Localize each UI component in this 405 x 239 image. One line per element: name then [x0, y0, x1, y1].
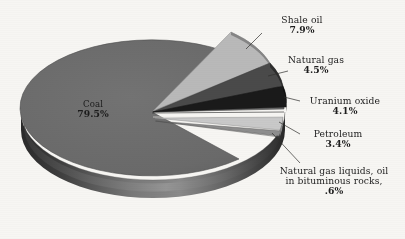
slice-percent-shale-oil: 7.9% — [265, 25, 339, 35]
slice-percent-petroleum: 3.4% — [300, 139, 376, 149]
pie-chart-figure: Coal 79.5% Shale oil 7.9% Natural gas 4.… — [0, 0, 405, 239]
slice-label-coal: Coal 79.5% — [58, 100, 128, 119]
slice-percent-ngl: .6% — [268, 186, 400, 196]
slice-label-uranium-oxide: Uranium oxide 4.1% — [300, 96, 390, 116]
slice-label-natural-gas: Natural gas 4.5% — [277, 55, 355, 75]
slice-label-petroleum: Petroleum 3.4% — [300, 129, 376, 149]
slice-percent-coal: 79.5% — [58, 109, 128, 119]
slice-label-natural-gas-liquids: Natural gas liquids, oil in bituminous r… — [268, 166, 400, 196]
pie-chart-svg — [0, 0, 405, 239]
slice-percent-natural-gas: 4.5% — [277, 65, 355, 75]
slice-label-shale-oil: Shale oil 7.9% — [265, 15, 339, 35]
slice-percent-uranium-oxide: 4.1% — [300, 106, 390, 116]
